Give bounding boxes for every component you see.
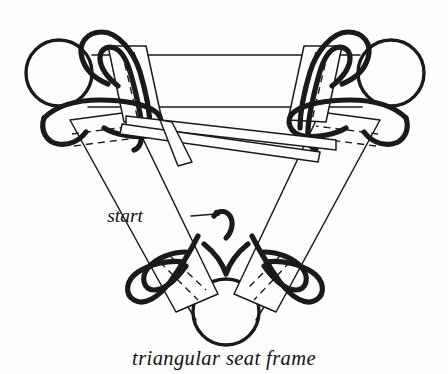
figure-root: start triangular seat frame bbox=[0, 0, 448, 374]
leader-dot-start bbox=[214, 210, 220, 216]
figure-caption: triangular seat frame bbox=[132, 347, 316, 370]
start-label: start bbox=[107, 205, 143, 226]
triangular-seat-frame-illustration: start triangular seat frame bbox=[0, 0, 448, 374]
